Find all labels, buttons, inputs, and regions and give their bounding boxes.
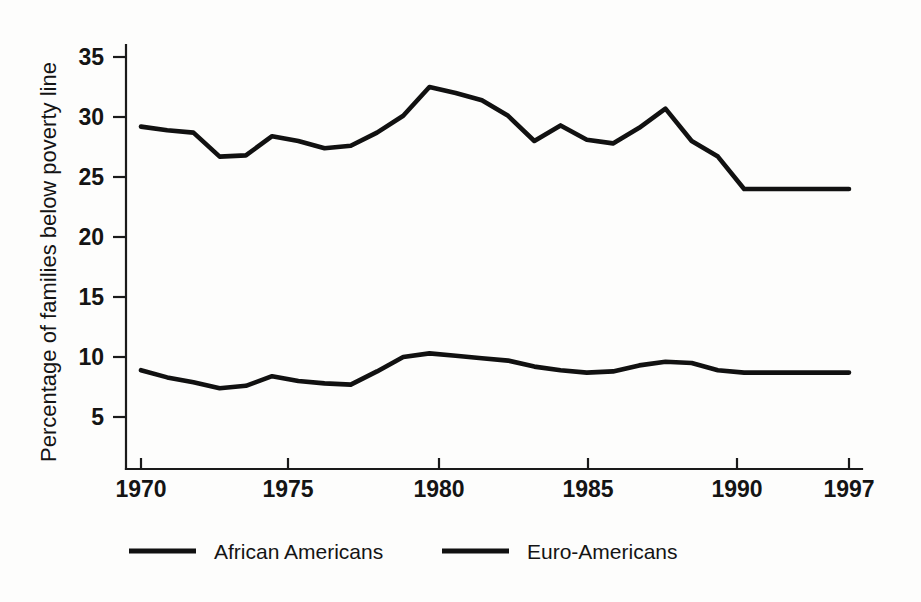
x-axis-ticks: 1970 1975 1980 1985 1990 1997 [115, 458, 874, 502]
y-tick-label-25: 25 [78, 164, 104, 190]
line-chart-canvas: Percentage of families below poverty lin… [0, 0, 921, 602]
series-line-euro-americans [141, 353, 849, 388]
legend-label-african-americans: African Americans [214, 540, 383, 563]
x-tick-label-1990: 1990 [711, 476, 762, 502]
x-tick-label-1997: 1997 [823, 476, 874, 502]
series-line-african-americans [141, 87, 849, 189]
y-tick-label-15: 15 [78, 284, 104, 310]
y-tick-label-5: 5 [91, 404, 104, 430]
y-tick-label-10: 10 [78, 344, 104, 370]
y-axis-label: Percentage of families below poverty lin… [36, 62, 61, 462]
y-tick-label-20: 20 [78, 224, 104, 250]
chart-legend: African Americans Euro-Americans [129, 540, 678, 563]
x-tick-label-1980: 1980 [413, 476, 464, 502]
y-tick-label-30: 30 [78, 104, 104, 130]
x-tick-label-1970: 1970 [115, 476, 166, 502]
legend-label-euro-americans: Euro-Americans [527, 540, 678, 563]
x-tick-label-1985: 1985 [562, 476, 613, 502]
y-axis-ticks: 35 30 25 20 15 10 5 [78, 44, 126, 430]
chart-figure: Percentage of families below poverty lin… [0, 0, 921, 602]
x-tick-label-1975: 1975 [262, 476, 313, 502]
y-tick-label-35: 35 [78, 44, 104, 70]
